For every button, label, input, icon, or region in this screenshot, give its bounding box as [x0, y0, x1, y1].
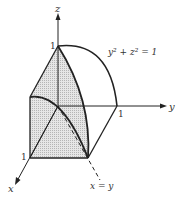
edge-y1-to-corner — [88, 106, 117, 158]
z-axis-label: z — [54, 3, 61, 14]
solid-region-diagram: z y x 1 1 1 y² + z² = 1 x = y — [0, 0, 183, 203]
x-axis-label: x — [8, 183, 14, 194]
x-tick-one: 1 — [21, 152, 27, 162]
x-axis-arrow-icon — [15, 177, 21, 185]
z-axis-arrow-icon — [56, 13, 61, 20]
cylinder-equation-label: y² + z² = 1 — [107, 47, 157, 57]
z-tick-one: 1 — [50, 41, 56, 51]
y-tick-one: 1 — [118, 109, 124, 119]
y-axis-label: y — [168, 101, 175, 112]
diagonal-label: x = y — [90, 181, 114, 191]
y-axis-arrow-icon — [160, 104, 167, 109]
